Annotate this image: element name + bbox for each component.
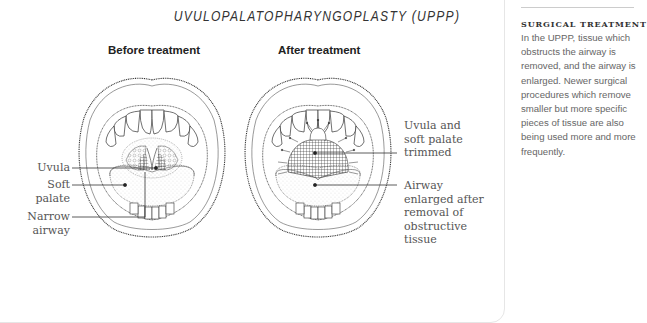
sidebar-body-text: In the UPPP, tissue which obstructs the … bbox=[521, 31, 637, 159]
label-uvula: Uvula bbox=[30, 161, 70, 175]
label-uvula-trimmed: Uvula and soft palate trimmed bbox=[404, 119, 494, 160]
label-airway-enlarged: Airway enlarged after removal of obstruc… bbox=[404, 179, 499, 247]
label-soft-palate: Soft palate bbox=[30, 178, 70, 205]
sidebar-heading: SURGICAL TREATMENT bbox=[521, 19, 647, 29]
label-narrow-airway: Narrow airway bbox=[20, 210, 70, 237]
sidebar-top-rule bbox=[521, 7, 634, 8]
